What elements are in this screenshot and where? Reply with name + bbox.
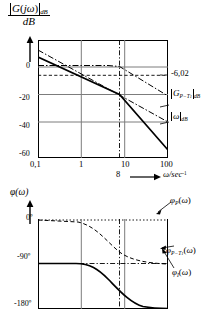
magnitude-xaxis-arrow [130, 172, 162, 182]
magnitude-xaxis-label-exponent: -1 [182, 170, 186, 176]
magnitude-ytick-0: 0 [26, 62, 30, 70]
magnitude-xtick-1: 1 [79, 160, 83, 169]
magnitude-curve [38, 57, 168, 150]
magnitude-yaxis-denominator: dB [8, 15, 50, 28]
bode-plot-figure: G(jω)dB dB 0 -20 -40 -60 [0, 0, 223, 321]
magnitude-yaxis-arrow [24, 36, 36, 62]
magnitude-ytick-minus40: -40 [19, 122, 30, 130]
gp-t1-magnitude-label: GP−T1dB [171, 89, 200, 99]
phase-yaxis-label: φ(ω) [10, 188, 28, 198]
magnitude-xaxis-label: ω/sec-1 [163, 170, 187, 179]
magnitude-xtick-100: 100 [160, 160, 173, 169]
minus-6-02-label: -6,02 [171, 69, 189, 78]
phi-p-curve [38, 220, 167, 264]
phase-ytick-0: 0º [26, 214, 32, 222]
magnitude-xtick-10: 10 [121, 160, 130, 169]
corner-frequency-label: 8 [116, 170, 120, 179]
magnitude-ytick-minus20: -20 [19, 94, 30, 102]
magnitude-xaxis-label-text: ω/sec [163, 169, 182, 179]
gp-t1-curve [38, 66, 168, 97]
phi-p-t1-label: φP−T1(ω) [166, 246, 196, 256]
phi-i-label: φI(ω) [172, 268, 191, 278]
magnitude-yaxis-numerator: G(jω)dB [8, 3, 50, 15]
omega-magnitude-label: ωdB [171, 112, 188, 122]
phi-i-curve [38, 264, 168, 309]
magnitude-yaxis-label: G(jω)dB dB [8, 3, 50, 28]
magnitude-xtick-0-1: 0,1 [30, 160, 41, 169]
phase-plot-area [38, 219, 168, 309]
magnitude-ytick-minus60: -60 [19, 150, 30, 158]
phase-ytick-minus180: -180º [14, 300, 31, 308]
phi-p-label: φP(ω) [170, 196, 191, 206]
phase-ytick-minus90: -90º [17, 253, 30, 261]
magnitude-plot-area [38, 40, 168, 158]
